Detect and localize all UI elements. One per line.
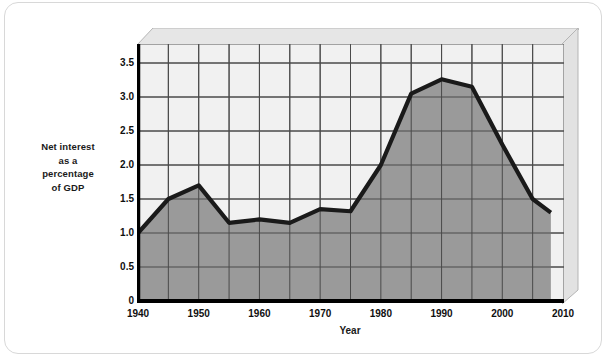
x-tick-label: 1980 (351, 307, 411, 321)
y-tick-label: 0 (106, 296, 134, 306)
x-tick-label: 1940 (108, 307, 168, 321)
chart-bevel-top (137, 28, 579, 45)
y-tick-label: 2.0 (106, 160, 134, 170)
y-axis-ticks: 00.51.01.52.02.53.03.5 (100, 28, 134, 308)
plot-canvas (137, 44, 564, 303)
x-tick-label: 1960 (229, 307, 289, 321)
chart-bevel-right (562, 28, 579, 308)
x-tick-label: 2000 (472, 307, 532, 321)
chart-plot-area-3d (137, 28, 579, 308)
y-tick-label: 1.0 (106, 228, 134, 238)
y-tick-label: 3.0 (106, 92, 134, 102)
y-tick-label: 1.5 (106, 194, 134, 204)
y-tick-label: 2.5 (106, 126, 134, 136)
chart-page: Net interest as a percentage of GDP 00 (0, 0, 608, 359)
x-axis-title: Year (130, 325, 570, 336)
y-tick-label: 0.5 (106, 262, 134, 272)
x-tick-label: 1950 (169, 307, 229, 321)
x-tick-label: 1970 (290, 307, 350, 321)
y-tick-label: 3.5 (106, 58, 134, 68)
x-tick-label: 1990 (412, 307, 472, 321)
x-axis-ticks: 19401950196019701980199020002010 (137, 307, 597, 323)
x-tick-label: 2010 (533, 307, 593, 321)
chart-svg (137, 44, 564, 303)
